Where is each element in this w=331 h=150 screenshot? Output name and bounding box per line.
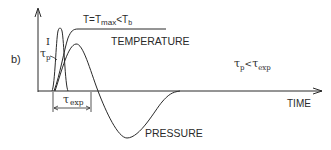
panel-label: b) — [11, 53, 21, 65]
tau-p-label: τ p — [40, 47, 57, 62]
pulse-label: I — [46, 36, 50, 47]
x-axis-label: TIME — [287, 98, 311, 109]
svg-text:τp<τexp: τp<τexp — [234, 57, 271, 72]
thermoelastic-pulse-diagram: b) TIME I τ p T=Tmax<Tb TEMPERATURE PRES… — [0, 0, 331, 150]
svg-text:exp: exp — [70, 98, 84, 107]
pressure-label: PRESSURE — [145, 127, 203, 139]
condition-label: τp<τexp — [234, 57, 271, 72]
svg-text:T=Tmax<Tb: T=Tmax<Tb — [83, 14, 132, 27]
plateau-equation: T=Tmax<Tb — [83, 14, 132, 27]
svg-text:p: p — [46, 54, 51, 62]
tau-exp-interval: τ exp — [53, 92, 91, 112]
temperature-label: TEMPERATURE — [111, 35, 190, 47]
svg-text:τ: τ — [63, 93, 69, 106]
